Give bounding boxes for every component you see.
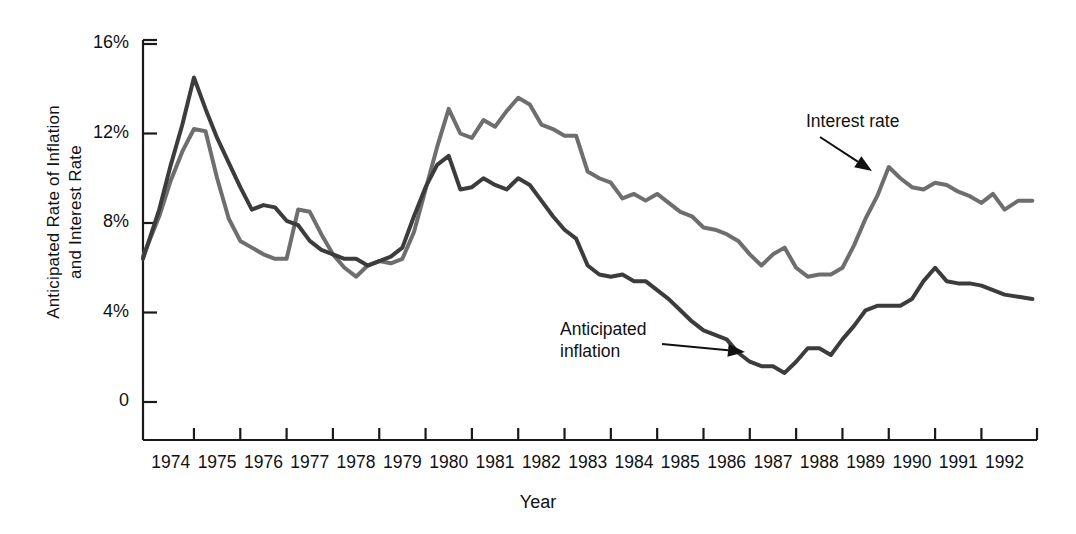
y-axis-tick-label: 12% bbox=[59, 122, 129, 143]
axes-group bbox=[143, 40, 1037, 440]
arrow-interest-rate-head bbox=[854, 156, 872, 171]
chart-figure: Anticipated Rate of Inflation and Intere… bbox=[0, 0, 1076, 534]
arrow-interest-rate-shaft bbox=[820, 137, 858, 162]
arrow-anticipated-inflation-shaft bbox=[662, 344, 728, 350]
annotation-anticipated-inflation-line2: inflation bbox=[560, 341, 620, 361]
y-axis-tick-label: 16% bbox=[59, 32, 129, 53]
y-axis-tick-label: 0 bbox=[59, 390, 129, 411]
y-axis-tick-label: 4% bbox=[59, 301, 129, 322]
annotation-interest-rate-text: Interest rate bbox=[806, 111, 899, 131]
annotation-anticipated-inflation: Anticipated inflation bbox=[560, 318, 647, 362]
y-axis-tick-label: 8% bbox=[59, 211, 129, 232]
annotation-anticipated-inflation-line1: Anticipated bbox=[560, 319, 647, 339]
annotation-interest-rate: Interest rate bbox=[806, 110, 899, 132]
x-axis-tick-label: 1992 bbox=[975, 452, 1035, 473]
